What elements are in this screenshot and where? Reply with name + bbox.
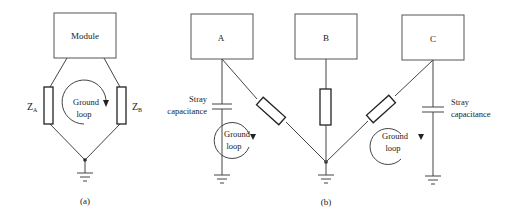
panel-a: Module ZA ZB Ground loop (a)	[27, 13, 142, 206]
stray-capacitance-left-label: Stray	[189, 94, 208, 104]
caption-a: (a)	[80, 196, 90, 206]
resistor-b	[320, 89, 331, 125]
ground-symbol-icon	[214, 175, 230, 183]
svg-text:A: A	[218, 33, 225, 43]
svg-text:C: C	[430, 34, 436, 44]
module-label: Module	[71, 31, 99, 41]
ground-loop-diagram: Module ZA ZB Ground loop (a) A B	[0, 0, 518, 221]
impedance-zb-resistor	[117, 87, 126, 124]
ground-symbol-icon	[425, 176, 441, 184]
impedance-za-resistor	[44, 87, 53, 124]
ground-loop-left-label: Ground	[224, 129, 251, 139]
ground-symbol-icon	[318, 175, 334, 183]
ground-loop-label: Ground	[73, 97, 100, 107]
svg-text:loop: loop	[385, 143, 400, 153]
svg-text:loop: loop	[226, 141, 241, 151]
caption-b: (b)	[321, 197, 332, 207]
ground-loop-right-label: Ground	[382, 131, 409, 141]
impedance-za-label: ZA	[27, 101, 38, 113]
resistor-a	[257, 97, 286, 125]
resistor-c	[367, 95, 396, 123]
svg-text:capacitance: capacitance	[167, 106, 207, 116]
ground-symbol-icon	[77, 173, 93, 181]
svg-text:B: B	[323, 33, 329, 43]
panel-b: A B C St	[167, 14, 491, 207]
impedance-zb-label: ZB	[132, 101, 142, 113]
stray-capacitance-right-label: Stray	[451, 97, 470, 107]
svg-text:loop: loop	[76, 109, 91, 119]
svg-text:capacitance: capacitance	[451, 109, 491, 119]
